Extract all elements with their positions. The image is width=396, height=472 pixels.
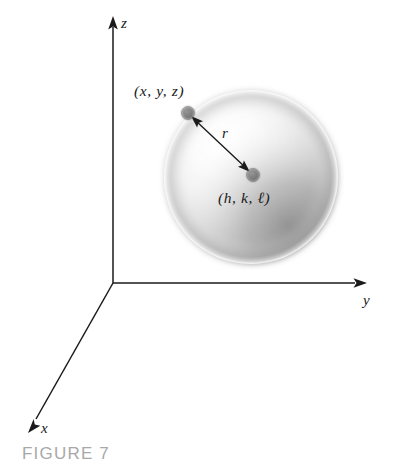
- axis-z: z: [108, 15, 127, 283]
- center-point-marker: [247, 169, 260, 182]
- arrowhead-icon: [28, 419, 40, 433]
- axis-y: y: [113, 278, 370, 308]
- coordinate-sphere-illustration: z y x r: [0, 0, 396, 472]
- arrowhead-icon: [354, 278, 368, 288]
- axis-label-z: z: [120, 15, 127, 31]
- surface-point-marker: [182, 107, 195, 120]
- surface-point-label: (x, y, z): [134, 82, 184, 100]
- figure-caption: FIGURE 7: [22, 444, 110, 463]
- center-point-label: (h, k, ℓ): [218, 189, 270, 207]
- figure-diagram: z y x r: [0, 0, 396, 472]
- radius-label: r: [222, 125, 228, 141]
- axis-label-x: x: [40, 420, 48, 436]
- axis-label-y: y: [361, 292, 370, 308]
- axis-x: x: [28, 283, 113, 436]
